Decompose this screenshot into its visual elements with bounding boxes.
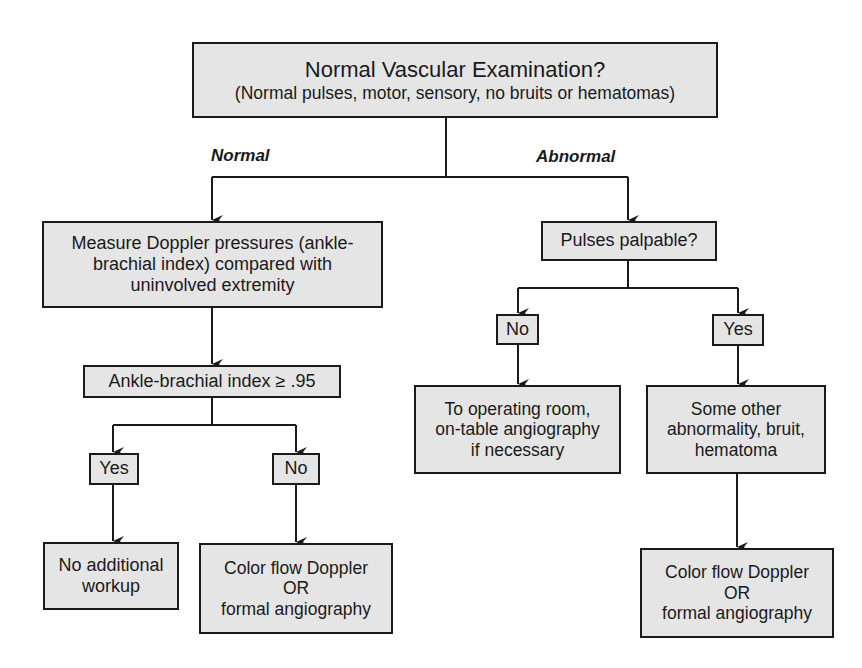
abi-yes-box: Yes	[89, 453, 139, 485]
operating-room-box: To operating room, on-table angiography …	[414, 385, 621, 474]
pulses-yes-label: Yes	[723, 319, 752, 340]
left-color-flow-line-3: formal angiography	[221, 599, 371, 619]
abi-check-box: Ankle-brachial index ≥ .95	[83, 365, 341, 398]
pulses-no-box: No	[496, 314, 539, 345]
root-question-box: Normal Vascular Examination? (Normal pul…	[192, 42, 718, 118]
pulses-yes-box: Yes	[712, 314, 764, 346]
left-color-flow-line-1: Color flow Doppler	[224, 558, 368, 578]
other-abnormality-line-3: hematoma	[695, 440, 778, 460]
pulses-palpable-label: Pulses palpable?	[560, 230, 697, 251]
abi-check-label: Ankle-brachial index ≥ .95	[109, 371, 316, 392]
right-color-flow-line-2: OR	[724, 583, 750, 603]
doppler-line-2: brachial index) compared with	[93, 254, 332, 275]
vascular-exam-flowchart: Normal Vascular Examination? (Normal pul…	[0, 0, 862, 668]
right-color-flow-box: Color flow Doppler OR formal angiography	[640, 548, 834, 638]
doppler-measure-box: Measure Doppler pressures (ankle- brachi…	[42, 221, 383, 308]
root-title: Normal Vascular Examination?	[305, 57, 605, 83]
no-workup-line-1: No additional	[58, 555, 163, 576]
branch-label-abnormal: Abnormal	[536, 147, 615, 167]
operating-room-line-3: if necessary	[471, 440, 564, 460]
left-color-flow-box: Color flow Doppler OR formal angiography	[199, 543, 393, 634]
right-color-flow-line-3: formal angiography	[662, 603, 812, 623]
abi-no-box: No	[272, 453, 320, 485]
other-abnormality-line-1: Some other	[691, 399, 781, 419]
root-subtitle: (Normal pulses, motor, sensory, no bruit…	[235, 83, 675, 103]
doppler-line-3: uninvolved extremity	[130, 275, 294, 296]
operating-room-line-2: on-table angiography	[435, 419, 599, 439]
abi-no-label: No	[284, 458, 307, 479]
operating-room-line-1: To operating room,	[445, 399, 591, 419]
pulses-palpable-box: Pulses palpable?	[541, 221, 717, 261]
no-additional-workup-box: No additional workup	[43, 542, 179, 610]
left-color-flow-line-2: OR	[283, 578, 309, 598]
right-color-flow-line-1: Color flow Doppler	[665, 562, 809, 582]
other-abnormality-line-2: abnormality, bruit,	[667, 419, 805, 439]
no-workup-line-2: workup	[82, 576, 140, 597]
branch-label-normal: Normal	[211, 146, 270, 166]
abi-yes-label: Yes	[99, 458, 128, 479]
pulses-no-label: No	[506, 319, 529, 340]
other-abnormality-box: Some other abnormality, bruit, hematoma	[646, 385, 826, 474]
doppler-line-1: Measure Doppler pressures (ankle-	[71, 233, 353, 254]
